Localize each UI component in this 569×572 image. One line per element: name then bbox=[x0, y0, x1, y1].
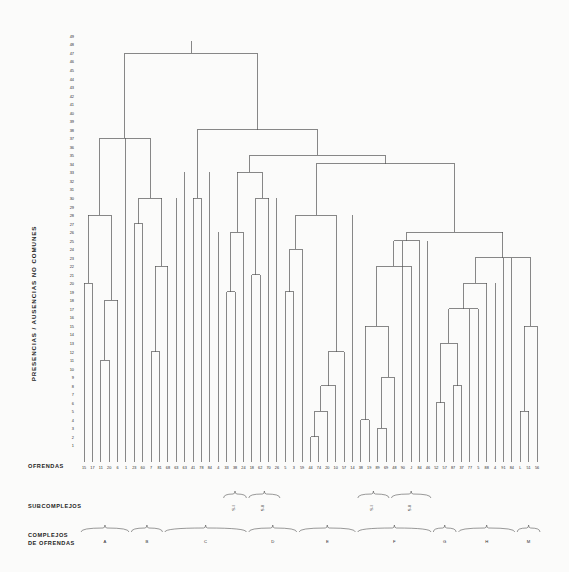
y-tick-label: 14 bbox=[70, 332, 75, 337]
y-tick-label: 40 bbox=[70, 111, 75, 116]
y-tick-label: 38 bbox=[70, 128, 74, 133]
leaf-label: 7 bbox=[150, 466, 152, 470]
leaf-label: 51 bbox=[526, 466, 530, 470]
leaf-label: 68 bbox=[166, 466, 170, 470]
leaf-label: 1 bbox=[125, 466, 127, 470]
leaf-label: 89 bbox=[375, 466, 379, 470]
y-tick-label: 18 bbox=[70, 298, 74, 303]
leaf-label: 70 bbox=[266, 466, 270, 470]
y-tick-label: 44 bbox=[70, 77, 75, 82]
complex-bracket-shape bbox=[517, 525, 540, 532]
leaf-label: 11 bbox=[99, 466, 103, 470]
complex-bracket-label: C bbox=[204, 539, 207, 544]
leaf-label: 90 bbox=[401, 466, 405, 470]
subcomplex-bracket-shape bbox=[249, 491, 280, 498]
y-tick-label: 8 bbox=[72, 384, 74, 389]
leaf-label: 74 bbox=[317, 466, 321, 470]
leaf-label: 84 bbox=[417, 466, 421, 470]
y-tick-label: 23 bbox=[70, 256, 74, 261]
y-tick-label: 1 bbox=[72, 443, 74, 448]
subcomplex-bracket-label: S-II bbox=[260, 505, 265, 512]
leaf-label: 26 bbox=[275, 466, 279, 470]
leaf-label: 38 bbox=[359, 466, 363, 470]
leaf-label: 4 bbox=[217, 466, 219, 470]
leaf-label: 62 bbox=[258, 466, 262, 470]
y-tick-label: 12 bbox=[70, 350, 74, 355]
leaf-label: 14 bbox=[350, 466, 354, 470]
leaf-label: 38 bbox=[233, 466, 237, 470]
y-tick-label: 6 bbox=[72, 401, 74, 406]
leaf-label: 10 bbox=[334, 466, 338, 470]
leaf-label: 57 bbox=[342, 466, 346, 470]
complex-bracket-label: A bbox=[104, 539, 107, 544]
y-tick-label: 31 bbox=[70, 187, 74, 192]
y-tick-label: 10 bbox=[70, 367, 75, 372]
y-tick-label: 2 bbox=[72, 435, 74, 440]
leaf-label: 3 bbox=[293, 466, 295, 470]
leaf-label: 18 bbox=[250, 466, 254, 470]
leaf-label: 23 bbox=[132, 466, 136, 470]
y-tick-label: 22 bbox=[70, 264, 74, 269]
y-tick-label: 13 bbox=[70, 341, 74, 346]
leaf-label: L bbox=[519, 466, 521, 470]
complex-bracket-label: D bbox=[271, 539, 274, 544]
y-tick-label: 49 bbox=[70, 34, 74, 39]
complex-bracket-label: E bbox=[326, 539, 329, 544]
complex-bracket-shape bbox=[299, 525, 355, 532]
leaf-label: 88 bbox=[485, 466, 489, 470]
y-tick-label: 37 bbox=[70, 136, 74, 141]
y-tick-label: 19 bbox=[70, 290, 74, 295]
leaf-label: 20 bbox=[325, 466, 329, 470]
complex-bracket-shape bbox=[165, 525, 247, 532]
leaf-label: 15 bbox=[82, 466, 86, 470]
subcomplex-bracket-group: S-IS-IIS-IS-II bbox=[224, 491, 431, 511]
complex-bracket-label: F bbox=[393, 539, 396, 544]
complex-bracket-label: B bbox=[146, 539, 149, 544]
y-tick-label: 15 bbox=[70, 324, 74, 329]
complex-bracket-shape bbox=[459, 525, 515, 532]
leaf-label: 78 bbox=[199, 466, 203, 470]
leaf-label: 20 bbox=[107, 466, 111, 470]
complex-bracket-shape bbox=[358, 525, 431, 532]
leaf-label: 4 bbox=[494, 466, 496, 470]
subcomplex-bracket-shape bbox=[391, 491, 431, 498]
leaf-label: 87 bbox=[451, 466, 455, 470]
leaf-label: 91 bbox=[501, 466, 505, 470]
y-tick-label: 25 bbox=[70, 239, 74, 244]
y-tick-label: 42 bbox=[70, 94, 74, 99]
y-tick-label: 3 bbox=[72, 426, 74, 431]
y-tick-label: 9 bbox=[72, 375, 74, 380]
complex-bracket-shape bbox=[249, 525, 297, 532]
y-tick-label: 20 bbox=[70, 281, 75, 286]
leaf-label: 63 bbox=[183, 466, 187, 470]
complex-bracket-shape bbox=[131, 525, 162, 532]
y-tick-label: 45 bbox=[70, 68, 74, 73]
leaf-label: 46 bbox=[426, 466, 430, 470]
leaf-label: 48 bbox=[392, 466, 396, 470]
subcomplex-bracket-label: S-II bbox=[407, 505, 412, 512]
leaf-label: 84 bbox=[208, 466, 212, 470]
leaf-label-group: 1517112061236078168636341788443338241862… bbox=[82, 466, 539, 470]
leaf-label: 60 bbox=[141, 466, 145, 470]
y-tick-label: 35 bbox=[70, 153, 74, 158]
y-axis-tick-group: 1234567891011121314151617181920212223242… bbox=[70, 34, 75, 448]
leaf-label: 37 bbox=[459, 466, 463, 470]
y-tick-label: 7 bbox=[72, 392, 74, 397]
leaf-label: 59 bbox=[300, 466, 304, 470]
dendrogram-canvas: 1234567891011121314151617181920212223242… bbox=[0, 0, 569, 572]
leaf-label: 52 bbox=[434, 466, 438, 470]
y-tick-label: 11 bbox=[70, 358, 74, 363]
leaf-tick-group bbox=[84, 454, 537, 462]
y-tick-label: 41 bbox=[70, 102, 74, 107]
y-tick-label: 21 bbox=[70, 273, 74, 278]
complex-bracket-group: ABCDEFGHM bbox=[81, 525, 540, 544]
leaf-label: 19 bbox=[367, 466, 371, 470]
y-tick-label: 27 bbox=[70, 222, 74, 227]
leaf-label: 5 bbox=[477, 466, 479, 470]
leaf-label: 63 bbox=[174, 466, 178, 470]
y-tick-label: 28 bbox=[70, 213, 74, 218]
leaf-label: 57 bbox=[443, 466, 447, 470]
y-tick-label: 16 bbox=[70, 315, 74, 320]
y-tick-label: 30 bbox=[70, 196, 75, 201]
y-tick-label: 29 bbox=[70, 205, 74, 210]
